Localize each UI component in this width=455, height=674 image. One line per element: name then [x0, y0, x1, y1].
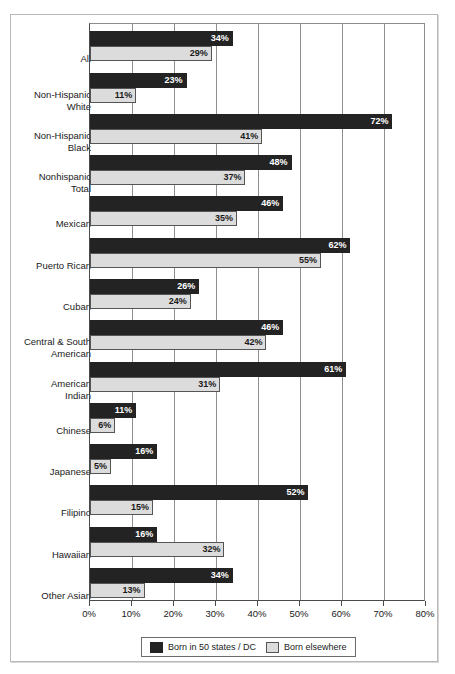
bar-value-label: 6%: [98, 421, 114, 430]
category-label: AmericanIndian: [11, 367, 95, 411]
category-label: Mexican: [11, 202, 95, 246]
legend-swatch-light: [266, 642, 279, 653]
x-axis-tick: [89, 601, 90, 606]
bar-group: 11%6%: [90, 396, 424, 440]
bar[interactable]: 55%: [90, 253, 321, 268]
bar[interactable]: 26%: [90, 279, 199, 294]
category-label-line: Non-Hispanic: [34, 89, 91, 101]
bar[interactable]: 11%: [90, 88, 136, 103]
category-label: Central & SouthAmerican: [11, 326, 95, 370]
x-axis-tick: [299, 601, 300, 606]
bar-line: 29%: [90, 46, 424, 61]
bar-line: 11%: [90, 88, 424, 103]
bar-line: 23%: [90, 73, 424, 88]
bar[interactable]: 62%: [90, 238, 350, 253]
x-axis-tick-label: 50%: [289, 608, 308, 619]
bar-line: 34%: [90, 31, 424, 46]
bar-value-label: 42%: [244, 338, 265, 347]
bar-line: 42%: [90, 335, 424, 350]
bar-value-label: 15%: [131, 503, 152, 512]
category-label-line: Other Asian: [41, 590, 91, 602]
bar[interactable]: 42%: [90, 335, 266, 350]
bar-line: 32%: [90, 542, 424, 557]
bar[interactable]: 46%: [90, 320, 283, 335]
bar[interactable]: 29%: [90, 46, 212, 61]
bar[interactable]: 11%: [90, 403, 136, 418]
category-axis-labels: AllNon-HispanicWhiteNon-HispanicBlackNon…: [11, 37, 95, 615]
bar[interactable]: 48%: [90, 155, 292, 170]
bar-value-label: 24%: [169, 297, 190, 306]
bar[interactable]: 34%: [90, 568, 233, 583]
x-axis-tick: [383, 601, 384, 606]
bar-value-label: 31%: [198, 380, 219, 389]
bar-value-label: 61%: [324, 365, 345, 374]
bar[interactable]: 15%: [90, 500, 153, 515]
category-label-line: Japanese: [50, 466, 91, 478]
bar-value-label: 46%: [261, 199, 282, 208]
bar-line: 61%: [90, 362, 424, 377]
bar-line: 26%: [90, 279, 424, 294]
bar-value-label: 29%: [190, 49, 211, 58]
bar-line: 6%: [90, 418, 424, 433]
bar[interactable]: 16%: [90, 444, 157, 459]
category-label-line: Chinese: [56, 425, 91, 437]
bar-value-label: 62%: [328, 241, 349, 250]
bar-value-label: 37%: [223, 173, 244, 182]
bar[interactable]: 24%: [90, 294, 191, 309]
bar[interactable]: 23%: [90, 73, 187, 88]
bar[interactable]: 37%: [90, 170, 245, 185]
legend-label: Born elsewhere: [284, 642, 347, 652]
bar-value-label: 46%: [261, 323, 282, 332]
bar[interactable]: 35%: [90, 211, 237, 226]
category-label: Puerto Rican: [11, 243, 95, 287]
bar-line: 35%: [90, 211, 424, 226]
bar-group: 34%29%: [90, 24, 424, 68]
bar-line: 41%: [90, 129, 424, 144]
bar[interactable]: 34%: [90, 31, 233, 46]
bar[interactable]: 5%: [90, 459, 111, 474]
bar[interactable]: 61%: [90, 362, 346, 377]
bar[interactable]: 16%: [90, 527, 157, 542]
bar-group: 72%41%: [90, 107, 424, 151]
bar[interactable]: 52%: [90, 485, 308, 500]
bar[interactable]: 41%: [90, 129, 262, 144]
bar[interactable]: 6%: [90, 418, 115, 433]
bar-line: 62%: [90, 238, 424, 253]
legend-label: Born in 50 states / DC: [168, 642, 256, 652]
bar[interactable]: 46%: [90, 196, 283, 211]
category-label-line: Central & South: [24, 336, 91, 348]
chart-figure: AllNon-HispanicWhiteNon-HispanicBlackNon…: [10, 14, 438, 662]
bar-line: 5%: [90, 459, 424, 474]
x-axis-tick: [425, 601, 426, 606]
bar-line: 13%: [90, 583, 424, 598]
bar[interactable]: 13%: [90, 583, 145, 598]
category-label: Chinese: [11, 409, 95, 453]
bar[interactable]: 31%: [90, 377, 220, 392]
category-label: Filipino: [11, 491, 95, 535]
bar-group: 34%13%: [90, 561, 424, 605]
bar-line: 46%: [90, 196, 424, 211]
bar-value-label: 16%: [135, 530, 156, 539]
bar-group: 52%15%: [90, 478, 424, 522]
bar-value-label: 26%: [177, 282, 198, 291]
bar-line: 46%: [90, 320, 424, 335]
category-label: NonhispanicTotal: [11, 161, 95, 205]
bar-value-label: 34%: [211, 34, 232, 43]
chart-legend: Born in 50 states / DCBorn elsewhere: [141, 637, 356, 657]
legend-item[interactable]: Born elsewhere: [266, 642, 347, 653]
bar-value-label: 32%: [202, 545, 223, 554]
category-label-line: Indian: [65, 390, 91, 402]
bar-group: 16%32%: [90, 519, 424, 563]
category-label: All: [11, 37, 95, 81]
bar-value-label: 35%: [215, 214, 236, 223]
x-axis-tick-label: 30%: [205, 608, 224, 619]
bar-group: 61%31%: [90, 354, 424, 398]
legend-item[interactable]: Born in 50 states / DC: [150, 642, 256, 653]
bar-rows: 34%29%23%11%72%41%48%37%46%35%62%55%26%2…: [90, 24, 424, 600]
x-axis-tick: [257, 601, 258, 606]
bar[interactable]: 72%: [90, 114, 392, 129]
bar[interactable]: 32%: [90, 542, 224, 557]
category-label-line: Total: [71, 183, 91, 195]
x-axis-tick-label: 20%: [163, 608, 182, 619]
bar-line: 37%: [90, 170, 424, 185]
